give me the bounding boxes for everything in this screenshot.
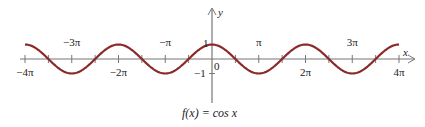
chart-caption: f(x) = cos x [182, 106, 238, 120]
x-tick-label: 4π [393, 66, 405, 78]
x-tick-label: −4π [16, 66, 34, 78]
x-tick-label: −3π [63, 36, 81, 48]
x-tick-label: 3π [347, 36, 359, 48]
y-tick-label-1: 1 [203, 37, 209, 49]
x-tick-label: −π [159, 36, 171, 48]
x-axis-label: x [402, 46, 408, 58]
x-tick-label: 2π [300, 66, 312, 78]
x-tick-label: −2π [110, 66, 128, 78]
axes [20, 8, 415, 103]
y-axis-label: y [217, 6, 223, 18]
cosine-chart: −4π−3π−2π−ππ2π3π4π x y 1 −1 0 f(x) = cos… [0, 0, 425, 127]
origin-label: 0 [214, 60, 220, 72]
x-tick-label: π [256, 36, 262, 48]
y-tick-label-neg1: −1 [194, 67, 206, 79]
